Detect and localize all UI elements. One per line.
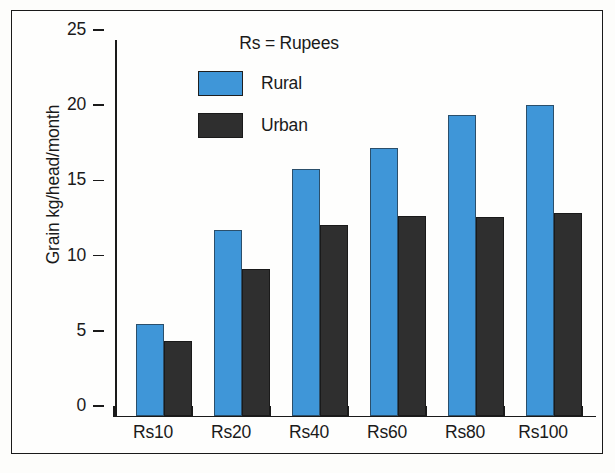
bar-urban-rs20: [242, 269, 270, 416]
x-axis-tick-label: Rs10: [108, 422, 198, 443]
y-axis-tick: [93, 405, 104, 407]
y-axis-tick-label: 15: [46, 169, 86, 190]
y-axis-tick-label: 0: [46, 395, 86, 416]
bar-rural-rs20: [214, 230, 242, 416]
y-axis-tick-label: 5: [46, 320, 86, 341]
bar-urban-rs10: [164, 341, 192, 416]
bar-rural-rs80: [448, 115, 476, 416]
bar-rural-rs60: [370, 148, 398, 416]
x-axis-tick-label: Rs100: [498, 422, 588, 443]
y-axis-tick: [93, 330, 104, 332]
bar-urban-rs100: [554, 213, 582, 416]
x-axis-tick-label: Rs60: [342, 422, 432, 443]
x-axis-tick-label: Rs40: [264, 422, 354, 443]
bar-rural-rs10: [136, 324, 164, 416]
y-axis-tick-label: 10: [46, 245, 86, 266]
bar-urban-rs60: [398, 216, 426, 416]
bar-rural-rs100: [526, 105, 554, 416]
y-axis-tick: [93, 104, 104, 106]
y-axis-tick: [93, 180, 104, 182]
y-axis-tick: [93, 29, 104, 31]
plot-area: [115, 40, 595, 416]
x-axis-tick-label: Rs80: [420, 422, 510, 443]
bar-rural-rs40: [292, 169, 320, 416]
chart-frame: Rs = Rupees Rural Urban Grain kg/head/mo…: [11, 10, 603, 454]
bar-urban-rs80: [476, 217, 504, 416]
figure: Rs = Rupees Rural Urban Grain kg/head/mo…: [0, 0, 615, 473]
y-axis-tick: [93, 255, 104, 257]
bar-urban-rs40: [320, 225, 348, 416]
x-axis-tick-label: Rs20: [186, 422, 276, 443]
y-axis-tick-label: 25: [46, 19, 86, 40]
y-axis-tick-label: 20: [46, 94, 86, 115]
